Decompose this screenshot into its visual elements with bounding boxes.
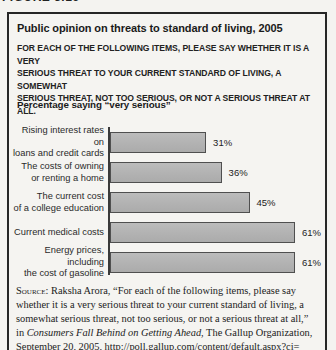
figure-label-text: FIGURE 3.16 — [2, 0, 142, 4]
category-label: Rising interest rates on loans and credi… — [9, 125, 104, 160]
chart-row: Rising interest rates on loans and credi… — [9, 132, 321, 153]
figure-title: Public opinion on threats to standard of… — [17, 22, 282, 34]
chart-row: Energy prices, including the cost of gas… — [9, 252, 321, 273]
category-label: The costs of owning or renting a home — [9, 161, 104, 185]
category-label: Energy prices, including the cost of gas… — [9, 245, 104, 280]
value-label: 36% — [229, 167, 248, 178]
source-title-italic: Consumers Fall Behind on Getting Ahead — [27, 327, 201, 338]
category-label: The current cost of a college education — [9, 191, 104, 215]
bar-chart: Rising interest rates on loans and credi… — [9, 132, 321, 273]
page: { "figure_label": "FIGURE 3.16", "colors… — [0, 0, 336, 350]
figure-box: Public opinion on threats to standard of… — [7, 12, 327, 350]
source-note: Source: Raksha Arora, “For each of the f… — [16, 284, 318, 350]
value-label: 31% — [213, 137, 232, 148]
axis-note: Percentage saying “very serious” — [17, 99, 171, 110]
bar — [110, 222, 295, 243]
chart-row: The costs of owning or renting a home 36… — [9, 162, 321, 183]
source-label: Source: — [16, 285, 48, 296]
bar — [110, 252, 295, 273]
chart-row: Current medical costs 61% — [9, 222, 321, 243]
value-label: 45% — [257, 197, 276, 208]
value-label: 61% — [302, 257, 321, 268]
bar — [110, 132, 206, 153]
chart-row: The current cost of a college education … — [9, 192, 321, 213]
axis-line — [108, 127, 110, 275]
figure-label: FIGURE 3.16 — [2, 0, 142, 5]
value-label: 61% — [302, 227, 321, 238]
bar — [110, 162, 222, 183]
bar — [110, 192, 250, 213]
category-label: Current medical costs — [9, 227, 104, 239]
